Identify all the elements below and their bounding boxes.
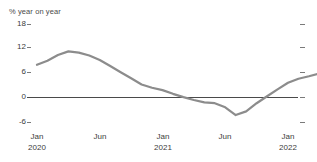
x-axis-label-3-month: Jun [219,132,232,141]
x-axis-label-2-month: Jan [157,132,170,141]
x-axis-label-4: Jan 2022 [279,131,297,153]
x-axis-label-0: Jan 2020 [28,131,46,153]
data-series-line [37,51,317,115]
x-axis-label-2-year: 2021 [154,142,172,153]
x-axis-label-1-month: Jun [94,132,107,141]
x-axis-label-4-year: 2022 [279,142,297,153]
x-axis-label-0-year: 2020 [28,142,46,153]
x-axis-label-2: Jan 2021 [154,131,172,153]
x-axis-label-0-month: Jan [31,132,44,141]
chart-container: % year on year 18 12 6 0 -6 Jan 2020 Jun… [0,0,317,162]
x-axis-label-1: Jun [94,131,107,142]
x-axis-label-4-month: Jan [282,132,295,141]
x-axis-label-3: Jun [219,131,232,142]
